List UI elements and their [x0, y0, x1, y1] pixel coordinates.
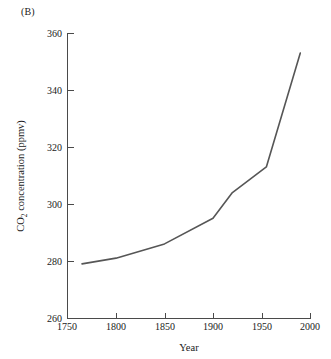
x-tick-label-1850: 1850: [155, 321, 175, 332]
axes-group: [67, 33, 310, 319]
y-tick-label-340: 340: [47, 85, 62, 96]
x-tick-label-1950: 1950: [252, 321, 272, 332]
y-axis-title: CO2 concentration (ppmv): [15, 120, 29, 232]
x-tick-label-1750: 1750: [57, 321, 77, 332]
x-axis-title: Year: [179, 342, 199, 353]
co2-concentration-line-chart: 260 280 300 320 340 360 1750 1800 1850 1…: [0, 0, 331, 359]
x-tick-label-1800: 1800: [106, 321, 126, 332]
x-tick-label-2000: 2000: [300, 321, 320, 332]
co2-data-line: [82, 53, 300, 264]
y-tick-group: 260 280 300 320 340 360: [47, 28, 74, 324]
x-tick-group: 1750 1800 1850 1900 1950 2000: [57, 313, 320, 333]
y-axis-title-suffix: concentration (ppmv): [15, 120, 27, 214]
y-tick-label-280: 280: [47, 256, 62, 267]
y-tick-label-360: 360: [47, 28, 62, 39]
x-tick-label-1900: 1900: [203, 321, 223, 332]
y-axis-title-prefix: CO: [15, 217, 26, 232]
figure-container: (B) 260 280 300 320 340 360: [0, 0, 331, 359]
y-tick-label-320: 320: [47, 142, 62, 153]
y-tick-label-300: 300: [47, 199, 62, 210]
